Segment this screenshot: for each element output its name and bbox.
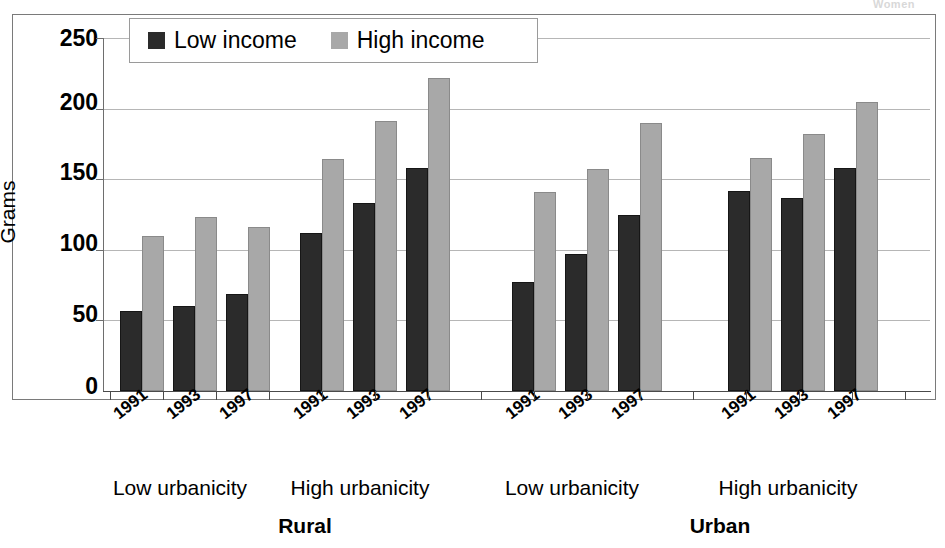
- bar-low-income[interactable]: [781, 198, 803, 391]
- x-tick-mark: [852, 391, 853, 400]
- legend: Low income High income: [129, 18, 538, 63]
- bar-high-income[interactable]: [195, 217, 217, 391]
- legend-label: High income: [357, 29, 485, 52]
- bar-high-income[interactable]: [248, 227, 270, 391]
- bar-low-income[interactable]: [173, 306, 195, 391]
- legend-item-high-income: High income: [331, 29, 485, 52]
- y-tick-mark: [96, 38, 104, 39]
- y-tick-label: 100: [26, 232, 98, 255]
- bar-low-income[interactable]: [353, 203, 375, 391]
- legend-swatch-light-icon: [331, 32, 348, 49]
- x-tick-mark: [163, 391, 164, 400]
- bar-high-income[interactable]: [803, 134, 825, 391]
- x-tick-mark: [905, 391, 906, 400]
- bar-low-income[interactable]: [120, 311, 142, 391]
- x-group-label-urban: Urban: [640, 514, 800, 538]
- plot-area: [103, 38, 930, 391]
- y-tick-label: 250: [26, 27, 98, 50]
- bar-high-income[interactable]: [587, 169, 609, 391]
- y-tick-mark: [96, 109, 104, 110]
- x-axis-line: [103, 391, 931, 392]
- x-group-label-urbanicity: Low urbanicity: [484, 476, 660, 500]
- y-tick-label: 50: [26, 303, 98, 326]
- x-group-label-urbanicity: High urbanicity: [272, 476, 448, 500]
- bar-high-income[interactable]: [534, 192, 556, 391]
- bar-low-income[interactable]: [300, 233, 322, 391]
- bar-low-income[interactable]: [226, 294, 248, 391]
- bar-low-income[interactable]: [565, 254, 587, 391]
- y-tick-mark: [96, 179, 104, 180]
- bar-low-income[interactable]: [512, 282, 534, 391]
- x-tick-mark: [693, 391, 694, 400]
- x-tick-mark: [110, 391, 111, 400]
- y-tick-label: 150: [26, 161, 98, 184]
- bar-high-income[interactable]: [750, 158, 772, 391]
- bar-high-income[interactable]: [322, 159, 344, 391]
- y-axis: 250 200 150 100 50 0: [16, 0, 98, 400]
- y-axis-title: Grams: [0, 181, 20, 244]
- bar-low-income[interactable]: [618, 215, 640, 392]
- bar-high-income[interactable]: [856, 102, 878, 391]
- x-group-label-urbanicity: High urbanicity: [700, 476, 876, 500]
- legend-label: Low income: [174, 29, 297, 52]
- y-tick-mark: [96, 320, 104, 321]
- x-tick-mark: [640, 391, 641, 400]
- bar-low-income[interactable]: [834, 168, 856, 391]
- x-tick-mark: [587, 391, 588, 400]
- bar-high-income[interactable]: [375, 121, 397, 391]
- bar-low-income[interactable]: [406, 168, 428, 391]
- legend-swatch-dark-icon: [148, 32, 165, 49]
- y-tick-label: 0: [26, 375, 98, 398]
- y-tick-mark: [96, 250, 104, 251]
- bar-high-income[interactable]: [640, 123, 662, 391]
- x-group-label-rural: Rural: [225, 514, 385, 538]
- x-tick-mark: [428, 391, 429, 400]
- x-group-label-urbanicity: Low urbanicity: [92, 476, 268, 500]
- legend-item-low-income: Low income: [148, 29, 297, 52]
- x-tick-mark: [375, 391, 376, 400]
- top-caption: Women: [873, 0, 915, 10]
- x-tick-mark: [481, 391, 482, 400]
- bar-low-income[interactable]: [728, 191, 750, 392]
- bar-high-income[interactable]: [428, 78, 450, 391]
- x-tick-mark: [799, 391, 800, 400]
- x-tick-mark: [534, 391, 535, 400]
- x-tick-mark: [322, 391, 323, 400]
- x-tick-mark: [216, 391, 217, 400]
- x-tick-mark: [269, 391, 270, 400]
- chart-root: Women 250 200 150 100 50 0 Grams Low inc…: [0, 0, 945, 548]
- x-tick-mark: [746, 391, 747, 400]
- gridline: [103, 109, 930, 110]
- bar-high-income[interactable]: [142, 236, 164, 391]
- y-tick-label: 200: [26, 91, 98, 114]
